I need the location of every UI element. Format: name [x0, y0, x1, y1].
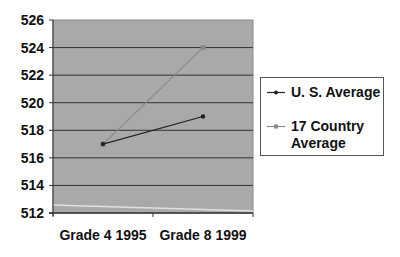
data-point-marker [101, 142, 105, 146]
plot-area [53, 20, 253, 213]
y-tick-label: 524 [0, 41, 44, 55]
y-tick-label: 520 [0, 96, 44, 110]
legend-label: 17 Country [291, 118, 364, 135]
y-tick-label: 526 [0, 13, 44, 27]
legend: U. S. Average 17 Country Average [260, 77, 384, 156]
data-point-marker [201, 45, 206, 50]
x-tick-label: Grade 4 1995 [53, 227, 153, 243]
data-point-marker [201, 114, 205, 118]
legend-label: U. S. Average [291, 84, 380, 101]
y-tick-label: 518 [0, 123, 44, 137]
x-tick-label: Grade 8 1999 [153, 227, 253, 243]
legend-line-marker-icon [267, 118, 285, 135]
y-tick-label: 514 [0, 178, 44, 192]
y-tick-label: 516 [0, 151, 44, 165]
y-tick-label: 512 [0, 206, 44, 220]
legend-line-marker-icon [267, 84, 285, 101]
y-tick-label: 522 [0, 68, 44, 82]
legend-label: Average [291, 135, 346, 152]
